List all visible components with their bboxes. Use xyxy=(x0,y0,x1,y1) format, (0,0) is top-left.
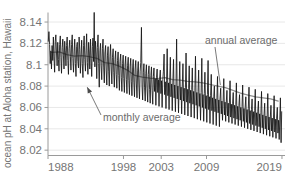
y-tick-label: 8.02 xyxy=(20,144,42,156)
x-tick-marks xyxy=(48,156,282,160)
y-axis: 8.028.048.068.088.18.128.14 xyxy=(20,13,48,157)
x-tick-label: 2003 xyxy=(148,161,174,173)
x-tick-label: 2019 xyxy=(256,161,282,173)
y-tick-label: 8.14 xyxy=(20,16,43,28)
y-axis-title: ocean pH at Aloha station, Hawaii xyxy=(2,18,13,168)
y-tick-label: 8.08 xyxy=(20,80,42,92)
annual-average-annotation-label: annual average xyxy=(205,34,278,46)
x-tick-label: 1998 xyxy=(111,161,137,173)
y-tick-label: 8.04 xyxy=(20,123,43,135)
x-tick-labels: 19881998200320092019 xyxy=(48,161,282,173)
y-tick-marks xyxy=(45,22,49,150)
y-tick-label: 8.06 xyxy=(20,101,42,113)
ocean-ph-line-chart: 8.028.048.068.088.18.128.14 198819982003… xyxy=(0,0,290,180)
chart-container: 8.028.048.068.088.18.128.14 198819982003… xyxy=(0,0,290,180)
y-tick-label: 8.1 xyxy=(26,59,42,71)
plot-series xyxy=(48,12,281,142)
monthly-average-annotation-label: monthly average xyxy=(103,111,181,123)
x-axis: 19881998200320092019 xyxy=(48,156,285,173)
y-tick-label: 8.12 xyxy=(20,37,42,49)
monthly-average-arrow-head xyxy=(87,87,92,93)
y-tick-labels: 8.028.048.068.088.18.128.14 xyxy=(20,16,43,156)
x-tick-label: 1988 xyxy=(48,161,74,173)
x-tick-label: 2009 xyxy=(194,161,220,173)
